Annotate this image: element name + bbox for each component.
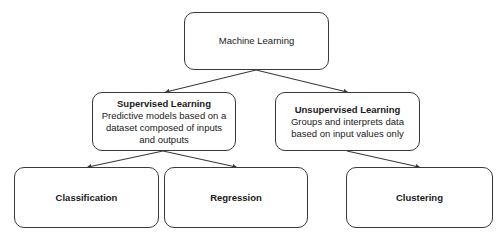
- node-title: Unsupervised Learning: [295, 104, 401, 116]
- node-title: Regression: [210, 192, 262, 204]
- node-title: Machine Learning: [219, 35, 295, 47]
- node-clustering: Clustering: [346, 167, 493, 228]
- node-regression: Regression: [164, 167, 308, 228]
- node-machine-learning: Machine Learning: [184, 12, 329, 70]
- edge-ml-supervised: [166, 70, 256, 92]
- node-classification: Classification: [14, 167, 159, 228]
- edge-unsupervised-clustering: [347, 151, 419, 167]
- node-title: Clustering: [396, 192, 443, 204]
- node-description: Predictive models based on a dataset com…: [99, 110, 229, 146]
- node-title: Supervised Learning: [117, 98, 211, 110]
- edge-supervised-classification: [88, 151, 163, 167]
- edge-supervised-regression: [163, 151, 236, 167]
- edge-ml-unsupervised: [256, 70, 347, 92]
- node-unsupervised-learning: Unsupervised Learning Groups and interpr…: [275, 92, 420, 151]
- node-description: Groups and interprets data based on inpu…: [290, 116, 405, 140]
- node-supervised-learning: Supervised Learning Predictive models ba…: [92, 92, 236, 151]
- node-title: Classification: [56, 192, 118, 204]
